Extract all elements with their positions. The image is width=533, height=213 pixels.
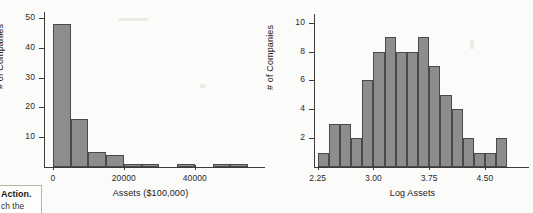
histogram-bar <box>88 152 106 167</box>
y-axis-tick <box>39 48 44 49</box>
x-axis-tick <box>124 165 125 170</box>
x-axis-tick-label: 4.50 <box>460 173 510 183</box>
x-axis-tick-label: 0 <box>28 173 78 183</box>
y-axis-line <box>44 12 45 167</box>
histogram-bar <box>440 95 451 167</box>
scan-speckle <box>470 40 474 49</box>
y-axis-tick <box>309 23 314 24</box>
x-axis-tick <box>318 165 319 170</box>
y-axis-tick-label: 4 <box>274 103 305 113</box>
histogram-bar <box>213 164 231 167</box>
histogram-bar <box>407 52 418 167</box>
histogram-bar <box>362 80 373 167</box>
y-axis-tick-label: 30 <box>4 72 35 82</box>
y-axis-tick-label: 6 <box>274 74 305 84</box>
histogram-bar <box>474 153 485 167</box>
y-axis-tick <box>39 107 44 108</box>
x-axis-title: Log Assets <box>314 188 511 198</box>
chart-assets-histogram: 102030405002000040000Assets ($100,000)# … <box>0 0 266 213</box>
x-axis-tick <box>429 165 430 170</box>
scan-speckle <box>118 18 148 21</box>
y-axis-line <box>314 14 315 167</box>
histogram-bar <box>329 124 340 167</box>
y-axis-tick <box>309 138 314 139</box>
histogram-bar <box>373 52 384 167</box>
y-axis-tick <box>39 18 44 19</box>
plot-area-left: 102030405002000040000Assets ($100,000)# … <box>44 12 257 167</box>
histogram-bar <box>124 164 142 167</box>
histogram-bar <box>106 155 124 167</box>
histogram-bar <box>452 109 463 167</box>
y-axis-tick-label: 10 <box>4 131 35 141</box>
x-axis-title: Assets ($100,000) <box>44 188 257 198</box>
margin-note-line-1: Action. <box>1 189 32 199</box>
y-axis-tick-label: 2 <box>274 132 305 142</box>
histogram-bar <box>418 37 429 167</box>
margin-note-line-2: ch the <box>1 201 24 211</box>
y-axis-tick-label: 10 <box>274 17 305 27</box>
x-axis-tick <box>485 165 486 170</box>
x-axis-tick-label: 3.00 <box>348 173 398 183</box>
scan-speckle <box>200 84 206 88</box>
x-axis-tick-label: 40000 <box>170 173 220 183</box>
y-axis-tick-label: 50 <box>4 12 35 22</box>
histogram-bar <box>463 138 474 167</box>
histogram-bar <box>340 124 351 167</box>
histogram-bar <box>142 164 160 167</box>
y-axis-tick <box>309 109 314 110</box>
x-axis-tick-label: 3.75 <box>404 173 454 183</box>
x-axis-line <box>44 167 265 168</box>
y-axis-tick <box>39 78 44 79</box>
histogram-bar <box>429 66 440 167</box>
plot-area-right: 2468102.253.003.754.50Log Assets# of Com… <box>314 14 511 167</box>
x-axis-tick <box>373 165 374 170</box>
x-axis-tick-label: 2.25 <box>293 173 343 183</box>
y-axis-tick-label: 20 <box>4 101 35 111</box>
histogram-bar <box>71 119 89 167</box>
x-axis-line <box>314 167 529 168</box>
histogram-bar <box>318 153 329 167</box>
x-axis-tick-label: 20000 <box>99 173 149 183</box>
y-axis-tick-label: 40 <box>4 42 35 52</box>
figure-container: 102030405002000040000Assets ($100,000)# … <box>0 0 533 213</box>
y-axis-tick <box>309 52 314 53</box>
x-axis-tick <box>195 165 196 170</box>
histogram-bar <box>351 138 362 167</box>
histogram-bar <box>230 164 248 167</box>
histogram-bar <box>385 37 396 167</box>
page-margin-note: Action. ch the <box>0 185 42 213</box>
y-axis-tick <box>39 137 44 138</box>
histogram-bar <box>396 52 407 167</box>
chart-log-assets-histogram: 2468102.253.003.754.50Log Assets# of Com… <box>266 0 533 213</box>
histogram-bar <box>53 24 71 167</box>
y-axis-tick <box>309 80 314 81</box>
x-axis-tick <box>53 165 54 170</box>
y-axis-tick-label: 8 <box>274 46 305 56</box>
histogram-bar <box>485 153 496 167</box>
histogram-bar <box>177 164 195 167</box>
histogram-bar <box>496 138 507 167</box>
